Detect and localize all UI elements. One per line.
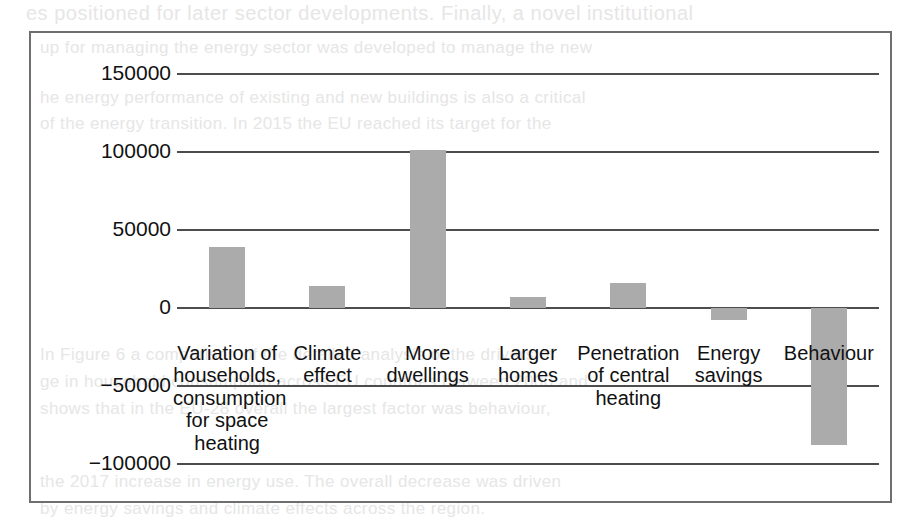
chart-plot-area: 150000100000500000−50000−100000Variation… — [31, 33, 890, 501]
gridline-150000 — [177, 73, 879, 75]
bar — [711, 308, 747, 320]
gridline-100000 — [177, 151, 879, 153]
y-axis-tick-label: 100000 — [35, 140, 171, 161]
y-axis-tick-label: −50000 — [35, 374, 171, 395]
y-axis-tick-label: −100000 — [35, 452, 171, 473]
y-axis-tick-label: 150000 — [35, 62, 171, 83]
x-axis-category-label: Larger homes — [474, 342, 582, 387]
x-axis-category-label: Variation of households, consumption for… — [173, 342, 281, 454]
bar — [410, 150, 446, 308]
y-axis-tick-label: 50000 — [35, 218, 171, 239]
bar — [309, 286, 345, 308]
chart-figure-frame: 150000100000500000−50000−100000Variation… — [29, 31, 892, 503]
x-axis-category-label: More dwellings — [374, 342, 482, 387]
y-axis-tick-label: 0 — [35, 296, 171, 317]
x-axis-category-label: Behaviour — [775, 342, 883, 364]
x-axis-category-label: Climate effect — [273, 342, 381, 387]
x-axis-category-label: Penetration of central heating — [574, 342, 682, 409]
bar — [510, 297, 546, 308]
bar — [209, 247, 245, 308]
gridline--100000 — [177, 463, 879, 465]
x-axis-category-label: Energy savings — [674, 342, 782, 387]
bar — [610, 283, 646, 308]
gridline-50000 — [177, 229, 879, 231]
bar — [811, 308, 847, 445]
bleed-text-line-1: es positioned for later sector developme… — [26, 2, 693, 25]
